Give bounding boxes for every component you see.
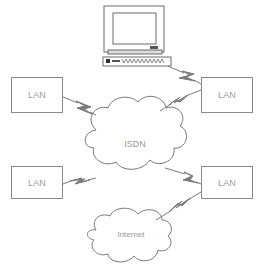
lan-bottom-right-label: LAN	[218, 178, 236, 188]
link-lan-bottom-left-to-isdn	[63, 178, 96, 184]
isdn-cloud	[85, 96, 186, 169]
link-isdn-to-lan-bottom-right	[165, 168, 201, 184]
link-lan-top-left-to-isdn	[63, 97, 96, 115]
internet-label: Internet	[106, 230, 156, 239]
lan-bottom-left-label: LAN	[28, 178, 46, 188]
lan-top-right-box: LAN	[201, 77, 253, 113]
lan-top-right-label: LAN	[218, 90, 236, 100]
lan-top-left-box: LAN	[11, 77, 63, 113]
isdn-label: ISDN	[120, 139, 150, 149]
lan-top-left-label: LAN	[28, 90, 46, 100]
link-computer-to-lan-top-right	[168, 66, 201, 84]
lan-bottom-left-box: LAN	[11, 166, 63, 199]
computer-icon	[103, 6, 171, 66]
link-internet-to-lan-bottom-right	[156, 192, 201, 220]
lan-bottom-right-box: LAN	[201, 166, 253, 199]
